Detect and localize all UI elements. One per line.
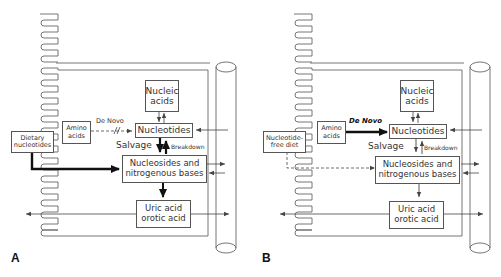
nucleotides-label: Nucleotides [392,126,445,136]
panel-a-nucleotides-box: Nucleotides [135,123,193,138]
panel-b-nucleotides-box: Nucleotides [389,124,447,139]
panel-b-structure [280,14,490,253]
panel-a-uric-acid-box: Uric acid orotic acid [136,200,191,228]
panel-b-amino-acids-box: Amino acids [317,121,346,144]
panel-a-letter: A [11,251,20,265]
amino-acids-label: Amino acids [318,125,345,140]
panel-b-breakdown-label: Breakdown [424,144,457,151]
panel-a-nucleosides-box: Nucleosides and nitrogenous bases [122,155,207,183]
nucleosides-label: Nucleosides and nitrogenous bases [376,160,459,180]
panel-a-dietary-nucleotides-box: Dietary nucleotides [11,131,54,153]
panel-b-nucleotide-free-diet-box: Nucleotide-free diet [263,131,306,153]
panel-b-de-novo-label: De Novo [349,117,382,125]
panel-a-nucleic-acids-box: Nucleic acids [145,80,179,112]
panel-a-structure [26,14,236,253]
uric-acid-label: Uric acid orotic acid [137,204,190,224]
uric-acid-label: Uric acid orotic acid [390,205,443,225]
panel-b-letter: B [262,251,271,265]
panel-a-salvage-label: Salvage [116,140,152,150]
panel-a-breakdown-label: Breakdown [171,143,204,150]
panel-b-salvage-label: Salvage [368,141,404,151]
nucleic-acids-label: Nucleic acids [146,86,179,107]
amino-acids-label: Amino acids [63,125,90,140]
nucleotides-label: Nucleotides [138,125,191,135]
diet-label: Dietary nucleotides [12,135,53,150]
nucleic-acids-label: Nucleic acids [401,86,434,107]
panel-b-nucleic-acids-box: Nucleic acids [400,80,434,112]
panel-a-de-novo-label: De Novo [96,117,124,125]
diet-label: Nucleotide-free diet [264,135,305,150]
panel-b-uric-acid-box: Uric acid orotic acid [389,201,444,229]
nucleosides-label: Nucleosides and nitrogenous bases [123,159,206,179]
panel-a-amino-acids-box: Amino acids [62,121,91,144]
panel-b-nucleosides-box: Nucleosides and nitrogenous bases [375,156,460,184]
